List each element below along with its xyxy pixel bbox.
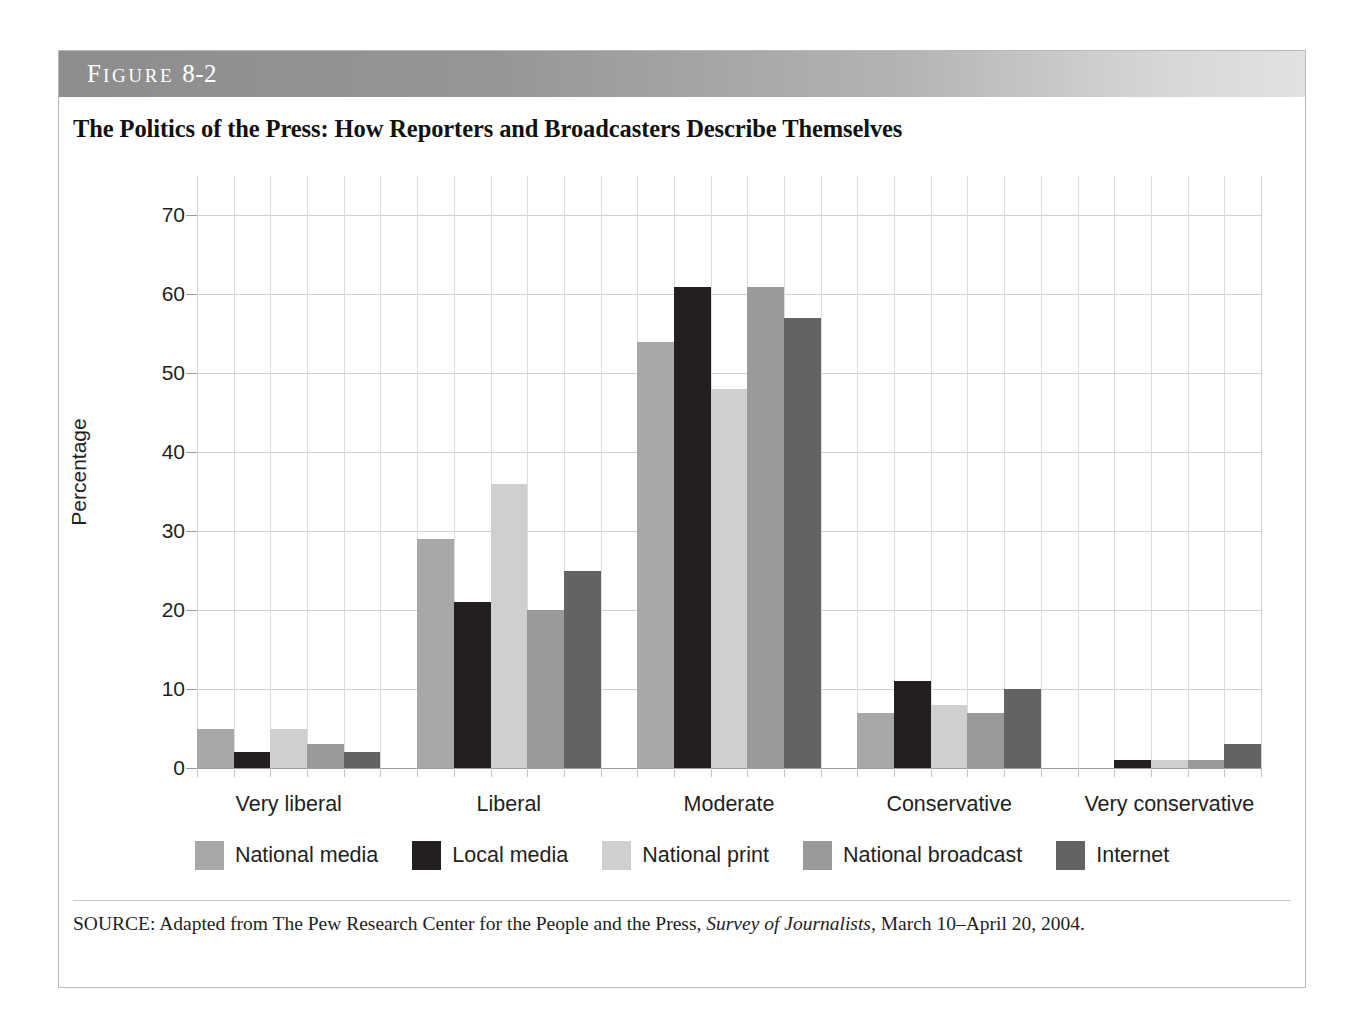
legend-item[interactable]: National print [602, 841, 769, 870]
x-category-label: Conservative [886, 792, 1011, 817]
x-tick-mark [931, 768, 932, 777]
x-tick-mark [601, 768, 602, 777]
legend-label: Local media [452, 843, 568, 868]
y-axis-title: Percentage [67, 418, 91, 525]
x-gridline [197, 176, 198, 768]
figure-page: FIGURE8-2 The Politics of the Press: How… [0, 0, 1357, 1036]
source-suffix: March 10–April 20, 2004. [876, 913, 1085, 934]
x-tick-mark [197, 768, 198, 777]
y-tick-label: 70 [162, 203, 185, 227]
y-tick-label: 10 [162, 677, 185, 701]
x-tick-mark [747, 768, 748, 777]
legend-item[interactable]: National broadcast [803, 841, 1022, 870]
chart-bar [784, 318, 821, 768]
x-tick-mark [234, 768, 235, 777]
chart-bar [454, 602, 491, 768]
y-tick-mark [186, 531, 197, 532]
x-tick-mark [821, 768, 822, 777]
y-tick-label: 0 [173, 756, 185, 780]
y-tick-label: 40 [162, 440, 185, 464]
x-tick-mark [674, 768, 675, 777]
x-gridline [344, 176, 345, 768]
chart-bar [747, 287, 784, 768]
figure-number: 8-2 [182, 60, 217, 87]
chart-bar [857, 713, 894, 768]
x-tick-mark [417, 768, 418, 777]
x-tick-mark [1041, 768, 1042, 777]
x-gridline [1004, 176, 1005, 768]
figure-number-label: FIGURE8-2 [87, 60, 217, 88]
chart-plot-area [197, 176, 1261, 768]
chart-bar [344, 752, 381, 768]
y-tick-mark [186, 452, 197, 453]
y-tick-label: 30 [162, 519, 185, 543]
x-gridline [307, 176, 308, 768]
x-tick-mark [527, 768, 528, 777]
legend-swatch [602, 841, 631, 870]
x-gridline [601, 176, 602, 768]
chart-bar [234, 752, 271, 768]
legend-swatch [195, 841, 224, 870]
chart-bar [417, 539, 454, 768]
legend-item[interactable]: Internet [1056, 841, 1169, 870]
legend-item[interactable]: National media [195, 841, 378, 870]
y-tick-label: 60 [162, 282, 185, 306]
chart-bar [564, 571, 601, 768]
x-tick-mark [1078, 768, 1079, 777]
x-category-label: Very liberal [236, 792, 342, 817]
chart-legend: National mediaLocal mediaNational printN… [59, 841, 1305, 870]
legend-item[interactable]: Local media [412, 841, 568, 870]
x-tick-mark [1151, 768, 1152, 777]
x-tick-mark [637, 768, 638, 777]
x-tick-mark [307, 768, 308, 777]
x-tick-mark [564, 768, 565, 777]
chart-bar [1004, 689, 1041, 768]
x-category-label: Moderate [684, 792, 775, 817]
x-tick-mark [1114, 768, 1115, 777]
chart-bar [270, 729, 307, 768]
x-tick-mark [857, 768, 858, 777]
source-prefix: SOURCE: Adapted from The Pew Research Ce… [73, 913, 706, 934]
x-gridline [1041, 176, 1042, 768]
legend-label: National broadcast [843, 843, 1022, 868]
x-axis-line [197, 768, 1261, 769]
x-tick-mark [894, 768, 895, 777]
legend-label: National print [642, 843, 769, 868]
y-gridline [197, 294, 1261, 295]
x-gridline [821, 176, 822, 768]
x-tick-mark [344, 768, 345, 777]
legend-swatch [412, 841, 441, 870]
x-category-label: Very conservative [1084, 792, 1254, 817]
x-tick-mark [1004, 768, 1005, 777]
figure-word-igure: IGURE [103, 65, 174, 86]
legend-label: National media [235, 843, 378, 868]
x-tick-mark [380, 768, 381, 777]
x-category-label: Liberal [477, 792, 542, 817]
chart-bar [967, 713, 1004, 768]
y-tick-mark [186, 373, 197, 374]
legend-swatch [1056, 841, 1085, 870]
chart-bar [491, 484, 528, 768]
x-gridline [270, 176, 271, 768]
chart-bar [1151, 760, 1188, 768]
legend-label: Internet [1096, 843, 1169, 868]
x-gridline [1078, 176, 1079, 768]
figure-word-f: F [87, 60, 103, 87]
source-note: SOURCE: Adapted from The Pew Research Ce… [73, 913, 1085, 935]
x-gridline [1151, 176, 1152, 768]
y-gridline [197, 373, 1261, 374]
y-tick-mark [186, 215, 197, 216]
y-tick-label: 20 [162, 598, 185, 622]
figure-frame: FIGURE8-2 The Politics of the Press: How… [58, 50, 1306, 988]
chart-bar [527, 610, 564, 768]
x-gridline [1261, 176, 1262, 768]
x-gridline [857, 176, 858, 768]
y-tick-mark [186, 294, 197, 295]
figure-header-band: FIGURE8-2 [59, 51, 1305, 97]
x-tick-mark [711, 768, 712, 777]
source-italic-title: Survey of Journalists, [706, 913, 876, 934]
x-tick-mark [784, 768, 785, 777]
x-tick-mark [1224, 768, 1225, 777]
source-divider [73, 900, 1291, 901]
x-gridline [380, 176, 381, 768]
